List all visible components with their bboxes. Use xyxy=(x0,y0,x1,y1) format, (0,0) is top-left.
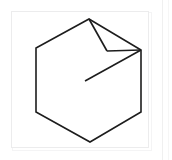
hexagon-outline xyxy=(36,19,141,142)
flap-fold-bottom-edge xyxy=(107,50,141,51)
figure-canvas xyxy=(0,0,172,160)
interior-diagonal-crease xyxy=(85,50,141,81)
hexagon-line-drawing xyxy=(0,0,172,160)
